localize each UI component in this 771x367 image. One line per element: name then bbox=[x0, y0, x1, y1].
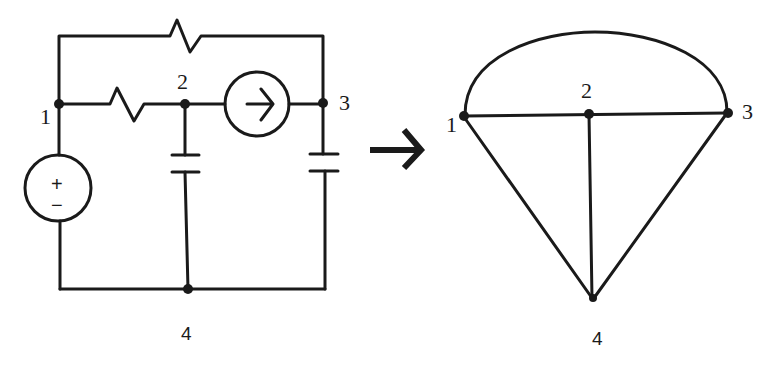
graph-diagram: 1 2 3 4 bbox=[446, 32, 753, 349]
graph-label-1: 1 bbox=[446, 112, 457, 137]
plus-sign: + bbox=[51, 173, 63, 195]
graph-node-2 bbox=[584, 109, 594, 119]
graph-label-2: 2 bbox=[581, 78, 592, 103]
graph-node-4 bbox=[589, 294, 597, 302]
circuit-node-1 bbox=[54, 99, 64, 109]
top-resistor-branch bbox=[59, 20, 323, 104]
circuit-node-2 bbox=[180, 99, 190, 109]
voltage-source: + − bbox=[25, 104, 91, 289]
circuit-to-graph-figure: + − 1 2 3 4 1 2 3 4 bbox=[0, 0, 771, 367]
graph-label-4: 4 bbox=[592, 328, 603, 349]
circuit-label-3: 3 bbox=[339, 90, 350, 115]
edge-1-3-arc bbox=[465, 32, 727, 115]
circuit-diagram: + − 1 2 3 4 bbox=[25, 20, 350, 344]
graph-node-3 bbox=[723, 108, 733, 118]
right-arrow-icon bbox=[370, 130, 421, 168]
capacitor-2-4 bbox=[172, 104, 199, 289]
circuit-node-3 bbox=[318, 98, 328, 108]
middle-resistor bbox=[59, 88, 185, 121]
edge-1-4 bbox=[464, 117, 592, 298]
minus-sign: − bbox=[51, 194, 63, 216]
current-source bbox=[225, 72, 289, 136]
edge-2-4 bbox=[589, 114, 592, 298]
graph-node-1 bbox=[459, 111, 469, 121]
graph-label-3: 3 bbox=[742, 99, 753, 124]
circuit-label-4: 4 bbox=[181, 323, 192, 344]
edge-3-4 bbox=[594, 113, 727, 298]
current-arrow-icon bbox=[247, 89, 273, 120]
edge-1-3-straight bbox=[464, 113, 727, 116]
circuit-node-4 bbox=[183, 284, 193, 294]
circuit-label-2: 2 bbox=[177, 69, 188, 94]
capacitor-3-4 bbox=[310, 104, 338, 289]
circuit-label-1: 1 bbox=[40, 104, 51, 129]
